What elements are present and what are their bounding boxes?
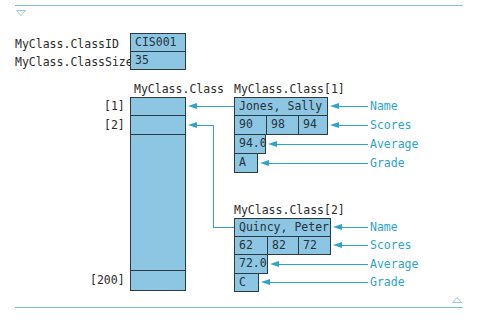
- array-index-1: [1]: [104, 99, 125, 113]
- record-2-title: MyClass.Class[2]: [234, 203, 345, 217]
- class-id-label: MyClass.ClassID: [15, 37, 119, 51]
- record-1-title: MyClass.Class[1]: [234, 82, 345, 96]
- array-slot-1: [130, 97, 186, 116]
- scores-arrow-1: [336, 125, 368, 126]
- class-id-cell: CIS001: [130, 33, 186, 52]
- triangle-down-icon: [16, 10, 26, 16]
- scores-label-1: Scores: [370, 118, 412, 132]
- average-label-1: Average: [370, 137, 418, 151]
- pointer-slot-1: [194, 106, 234, 107]
- pointer-slot-2-bottom: [213, 227, 234, 228]
- class-size-cell: 35: [130, 51, 186, 70]
- record-2-name: Quincy, Peter: [234, 218, 331, 237]
- record-1-score-1: 90: [234, 115, 267, 135]
- record-2-score-3: 72: [298, 236, 331, 255]
- record-1-score-2: 98: [266, 115, 299, 135]
- scores-arrow-2: [339, 245, 368, 246]
- class-size-label: MyClass.ClassSize: [15, 55, 133, 69]
- grade-label-1: Grade: [370, 156, 405, 170]
- array-slot-body: [130, 134, 186, 271]
- record-1-grade: A: [234, 153, 258, 173]
- record-1-name: Jones, Sally: [234, 97, 328, 116]
- array-index-2: [2]: [104, 118, 125, 132]
- array-index-200: [200]: [90, 273, 125, 287]
- name-arrow-1: [336, 106, 368, 107]
- record-2-score-2: 82: [267, 236, 299, 255]
- grade-label-2: Grade: [370, 275, 405, 289]
- record-2-grade: C: [234, 273, 259, 292]
- array-slot-2: [130, 115, 186, 135]
- average-arrow-2: [276, 264, 368, 265]
- record-1-score-3: 94: [298, 115, 328, 135]
- array-title: MyClass.Class: [134, 82, 224, 96]
- average-label-2: Average: [370, 257, 418, 271]
- bottom-rule: [15, 307, 463, 308]
- name-label-2: Name: [370, 220, 398, 234]
- record-2-score-1: 62: [234, 236, 268, 255]
- pointer-slot-2-top: [194, 125, 214, 126]
- name-arrow-2: [339, 227, 368, 228]
- record-1-average: 94.0: [234, 134, 266, 154]
- top-rule: [15, 5, 463, 6]
- triangle-up-icon: [452, 297, 462, 303]
- scores-label-2: Scores: [370, 238, 412, 252]
- name-label-1: Name: [370, 99, 398, 113]
- average-arrow-1: [274, 144, 368, 145]
- grade-arrow-2: [267, 282, 368, 283]
- array-slot-200: [130, 270, 186, 291]
- record-2-average: 72.0: [234, 254, 268, 274]
- grade-arrow-1: [266, 163, 368, 164]
- pointer-slot-2-vertical: [213, 125, 214, 228]
